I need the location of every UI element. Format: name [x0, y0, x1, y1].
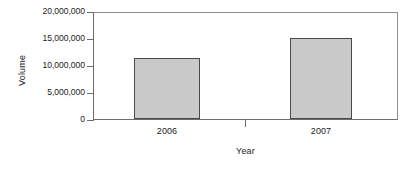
y-axis-tick-label-group: 0: [0, 114, 85, 125]
bar-2006: [134, 58, 200, 120]
y-axis-tick-mark: [87, 120, 94, 121]
y-axis-tick-label: 10,000,000: [0, 60, 85, 70]
y-axis-tick-label: 20,000,000: [0, 6, 85, 16]
bar-2007: [290, 38, 352, 119]
y-axis-tick-label: 15,000,000: [0, 33, 85, 43]
y-axis-tick-label-group: 5,000,000: [0, 87, 85, 98]
y-axis-tick-label: 5,000,000: [0, 87, 85, 97]
x-axis-tick-mark: [245, 120, 246, 127]
bar-chart-figure: Volume 20,000,000 15,000,000 10,000,000 …: [0, 0, 413, 169]
x-axis-title: Year: [0, 146, 413, 156]
y-axis-tick-label-group: 20,000,000: [0, 6, 85, 17]
x-axis-title-text: Year: [236, 146, 255, 156]
y-axis-tick-label: 0: [0, 114, 85, 124]
plot-area: [93, 12, 398, 120]
x-axis-category-label-2007: 2007: [281, 126, 361, 136]
y-axis-tick-label-group: 15,000,000: [0, 33, 85, 44]
y-axis-tick-label-group: 10,000,000: [0, 60, 85, 71]
x-axis-category-label-2006: 2006: [127, 126, 207, 136]
